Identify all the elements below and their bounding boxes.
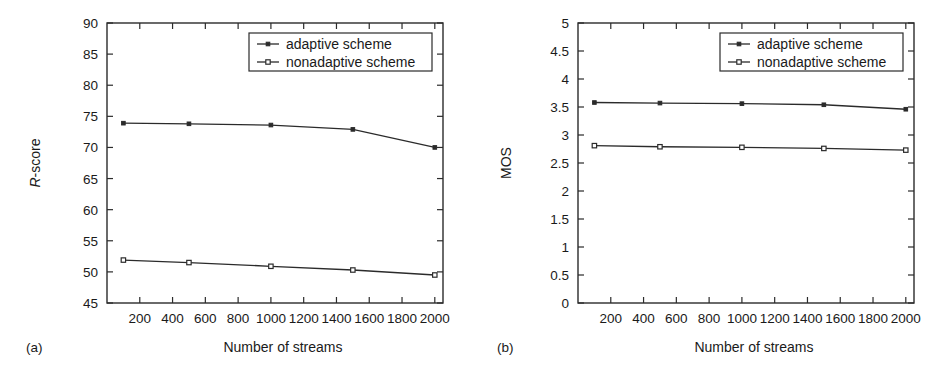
data-point-marker [904, 107, 908, 111]
data-point-marker [592, 143, 596, 147]
series-line-adaptive [123, 123, 434, 147]
y-axis-title: MOS [498, 147, 514, 179]
y-axis-tick-label: 80 [83, 78, 98, 93]
data-point-marker [904, 148, 908, 152]
legend-label-nonadaptive: nonadaptive scheme [757, 54, 886, 70]
y-axis-tick-label: 3.5 [550, 100, 569, 115]
x-axis-tick-label: 1400 [321, 311, 351, 326]
legend-sample-marker [266, 60, 270, 64]
x-axis-tick-label: 1800 [387, 311, 417, 326]
x-axis-tick-label: 1400 [792, 311, 822, 326]
data-point-marker [593, 101, 597, 105]
chart-panel-a: 4550556065707580859020040060080010001200… [0, 0, 471, 385]
data-point-marker [269, 264, 273, 268]
y-axis-tick-label: 85 [83, 47, 98, 62]
x-axis-tick-label: 2000 [891, 311, 921, 326]
series-line-nonadaptive [123, 260, 434, 275]
data-point-marker [658, 101, 662, 105]
x-axis-tick-label: 1000 [256, 311, 286, 326]
x-axis-tick-label: 200 [129, 311, 152, 326]
legend-label-nonadaptive: nonadaptive scheme [286, 54, 415, 70]
x-axis-tick-label: 200 [600, 311, 623, 326]
data-point-marker [822, 103, 826, 107]
data-point-marker [187, 260, 191, 264]
y-axis-tick-label: 5 [561, 16, 569, 31]
x-axis-tick-label: 1200 [289, 311, 319, 326]
data-point-marker [822, 146, 826, 150]
data-point-marker [740, 102, 744, 106]
legend-label-adaptive: adaptive scheme [757, 36, 863, 52]
y-axis-tick-label: 2 [561, 184, 569, 199]
data-point-marker [351, 268, 355, 272]
data-point-marker [269, 123, 273, 127]
x-axis-tick-label: 400 [632, 311, 655, 326]
data-point-marker [122, 121, 126, 125]
y-axis-tick-label: 1 [561, 240, 569, 255]
y-axis-tick-label: 90 [83, 16, 98, 31]
x-axis-tick-label: 600 [665, 311, 688, 326]
x-axis-tick-label: 1600 [825, 311, 855, 326]
y-axis-tick-label: 3 [561, 128, 569, 143]
data-point-marker [187, 122, 191, 126]
x-axis-tick-label: 600 [194, 311, 217, 326]
legend-label-adaptive: adaptive scheme [286, 36, 392, 52]
y-axis-tick-label: 1.5 [550, 212, 569, 227]
y-axis-tick-label: 0.5 [550, 268, 569, 283]
legend-sample-marker [737, 60, 741, 64]
chart-panel-b: 00.511.522.533.544.552004006008001000120… [471, 0, 942, 385]
series-line-adaptive [594, 103, 905, 110]
y-axis-tick-label: 2.5 [550, 156, 569, 171]
x-axis-tick-label: 800 [227, 311, 250, 326]
data-point-marker [433, 146, 437, 150]
x-axis-tick-label: 2000 [420, 311, 450, 326]
data-point-marker [740, 145, 744, 149]
data-point-marker [351, 128, 355, 132]
x-axis-tick-label: 400 [161, 311, 184, 326]
chart-b-canvas: 00.511.522.533.544.552004006008001000120… [471, 0, 942, 385]
x-axis-title: Number of streams [223, 339, 342, 355]
panel-tag-label: (b) [497, 340, 514, 355]
y-axis-tick-label: 55 [83, 234, 98, 249]
legend-sample-marker [737, 42, 741, 46]
x-axis-tick-label: 1200 [760, 311, 790, 326]
x-axis-tick-label: 1800 [858, 311, 888, 326]
y-axis-tick-label: 70 [83, 140, 98, 155]
x-axis-tick-label: 800 [698, 311, 721, 326]
y-axis-tick-label: 65 [83, 172, 98, 187]
x-axis-tick-label: 1000 [727, 311, 757, 326]
series-line-nonadaptive [594, 146, 905, 150]
y-axis-title: R-score [27, 138, 43, 187]
x-axis-tick-label: 1600 [354, 311, 384, 326]
y-axis-tick-label: 4 [561, 72, 569, 87]
chart-a-canvas: 4550556065707580859020040060080010001200… [0, 0, 471, 385]
figure-two-panel-line-charts: 4550556065707580859020040060080010001200… [0, 0, 942, 385]
y-axis-tick-label: 4.5 [550, 44, 569, 59]
y-axis-tick-label: 0 [561, 296, 569, 311]
y-axis-tick-label: 50 [83, 265, 98, 280]
panel-tag-label: (a) [26, 340, 43, 355]
data-point-marker [658, 145, 662, 149]
data-point-marker [433, 273, 437, 277]
y-axis-tick-label: 45 [83, 296, 98, 311]
x-axis-title: Number of streams [694, 339, 813, 355]
y-axis-tick-label: 60 [83, 203, 98, 218]
y-axis-tick-label: 75 [83, 109, 98, 124]
data-point-marker [121, 258, 125, 262]
legend-sample-marker [266, 42, 270, 46]
